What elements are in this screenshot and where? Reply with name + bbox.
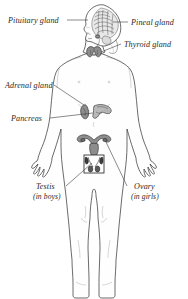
label-ovary: Ovary (134, 182, 155, 191)
label-ovary-note: (in girls) (131, 192, 159, 201)
label-pineal-gland: Pineal gland (130, 18, 175, 27)
thyroid-gland (87, 47, 102, 57)
testis (84, 155, 104, 173)
label-pituitary-gland: Pituitary gland (7, 16, 60, 25)
anatomy-figure: Pituitary gland Pineal gland Thyroid gla… (0, 0, 188, 299)
label-adrenal-gland: Adrenal gland (4, 81, 53, 90)
label-testis-note: (in boys) (33, 192, 61, 201)
label-pancreas: Pancreas (10, 114, 42, 123)
label-thyroid-gland: Thyroid gland (124, 40, 172, 49)
label-testis: Testis (36, 182, 55, 191)
